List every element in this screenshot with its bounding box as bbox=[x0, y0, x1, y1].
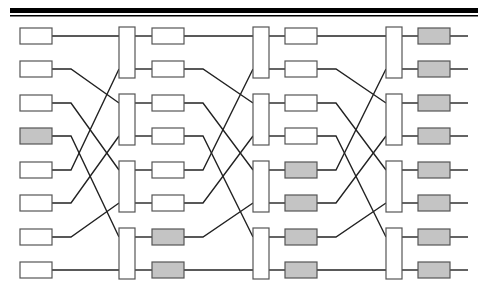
top-border-thick bbox=[10, 8, 478, 13]
stage-2-column-node bbox=[285, 128, 317, 144]
input-column-node-highlighted bbox=[20, 128, 52, 144]
stage-2-column-node bbox=[285, 61, 317, 77]
stage-1-column-node bbox=[152, 162, 184, 178]
shuffle-exchange-diagram bbox=[0, 0, 487, 293]
input-column-node bbox=[20, 28, 52, 44]
stage-1-column-node bbox=[152, 95, 184, 111]
input-column-node bbox=[20, 262, 52, 278]
wire-shuffle bbox=[184, 69, 253, 170]
output-column-node-highlighted bbox=[418, 162, 450, 178]
switch-stage-1-exchange-switch bbox=[119, 94, 135, 145]
network-diagram-canvas bbox=[0, 0, 487, 293]
switch-stage-3-exchange-switch bbox=[386, 94, 402, 145]
stage-1-column-node bbox=[152, 128, 184, 144]
output-column-node-highlighted bbox=[418, 95, 450, 111]
stage-2-column-node bbox=[285, 28, 317, 44]
stage-2-column-node bbox=[285, 95, 317, 111]
wire-shuffle bbox=[184, 69, 253, 103]
switch-stage-2-exchange-switch bbox=[253, 94, 269, 145]
wire-shuffle bbox=[317, 203, 386, 237]
stage-2-column-node-highlighted bbox=[285, 229, 317, 245]
switch-stage-1-exchange-switch bbox=[119, 27, 135, 78]
switch-stage-2-exchange-switch bbox=[253, 228, 269, 279]
stage-2-column-node-highlighted bbox=[285, 262, 317, 278]
switch-stage-1-exchange-switch bbox=[119, 228, 135, 279]
stage-1-column-node-highlighted bbox=[152, 229, 184, 245]
switch-stage-3-exchange-switch bbox=[386, 27, 402, 78]
output-column-node-highlighted bbox=[418, 28, 450, 44]
input-column-node bbox=[20, 95, 52, 111]
input-column-node bbox=[20, 195, 52, 211]
input-column-node bbox=[20, 229, 52, 245]
switch-stage-2-exchange-switch bbox=[253, 161, 269, 212]
switch-stage-3-exchange-switch bbox=[386, 228, 402, 279]
input-column-node bbox=[20, 61, 52, 77]
wire-shuffle bbox=[317, 69, 386, 103]
stage-1-column-node bbox=[152, 195, 184, 211]
wire-shuffle bbox=[52, 69, 119, 103]
output-column-node-highlighted bbox=[418, 262, 450, 278]
wire-shuffle bbox=[184, 136, 253, 237]
output-column-node-highlighted bbox=[418, 195, 450, 211]
stage-2-column-node-highlighted bbox=[285, 162, 317, 178]
wire-shuffle bbox=[184, 203, 253, 237]
wire-shuffle bbox=[52, 203, 119, 237]
stage-1-column-node-highlighted bbox=[152, 262, 184, 278]
switch-stage-3-exchange-switch bbox=[386, 161, 402, 212]
switch-stage-2-exchange-switch bbox=[253, 27, 269, 78]
top-border-thin bbox=[10, 15, 478, 17]
stage-1-column-node bbox=[152, 28, 184, 44]
wire-shuffle bbox=[317, 69, 386, 170]
wire-shuffle bbox=[317, 136, 386, 237]
stage-2-column-node-highlighted bbox=[285, 195, 317, 211]
stage-1-column-node bbox=[152, 61, 184, 77]
output-column-node-highlighted bbox=[418, 128, 450, 144]
output-column-node-highlighted bbox=[418, 229, 450, 245]
output-column-node-highlighted bbox=[418, 61, 450, 77]
switch-stage-1-exchange-switch bbox=[119, 161, 135, 212]
input-column-node bbox=[20, 162, 52, 178]
